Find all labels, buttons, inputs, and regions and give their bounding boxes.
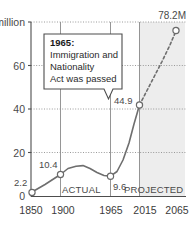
callout-line-1: Immigration and	[50, 49, 118, 60]
immigration-population-chart: 80 million 60 40 20 0 1850 1900 1965 201…	[0, 0, 191, 232]
data-point-2065	[173, 27, 179, 33]
data-point-1900	[57, 171, 63, 177]
callout-title: 1965:	[50, 37, 74, 48]
annotation-callout: 1965: Immigration and Nationality Act wa…	[44, 34, 122, 99]
callout-line-3: Act was passed	[50, 73, 117, 84]
data-point-2015	[136, 102, 142, 108]
x-tick-label-1965: 1965	[99, 204, 123, 216]
callout-line-2: Nationality	[50, 61, 95, 72]
y-tick-label-80: 80 million	[0, 16, 25, 28]
data-point-1965	[107, 173, 113, 179]
y-tick-label-20: 20	[13, 147, 25, 159]
region-label-projected: PROJECTED	[124, 184, 183, 195]
region-label-actual: ACTUAL	[62, 184, 101, 195]
x-tick-label-2015: 2015	[133, 204, 157, 216]
x-tick-label-1850: 1850	[19, 204, 43, 216]
x-tick-label-2065: 2065	[165, 204, 189, 216]
point-label-78-2m: 78.2M	[158, 10, 186, 21]
data-point-1850	[29, 189, 35, 195]
y-tick-label-40: 40	[13, 103, 25, 115]
chart-canvas: 80 million 60 40 20 0 1850 1900 1965 201…	[0, 0, 191, 232]
point-label-2-2: 2.2	[14, 177, 27, 188]
y-tick-label-60: 60	[13, 60, 25, 72]
point-label-10-4: 10.4	[39, 159, 58, 170]
y-tick-label-0: 0	[19, 190, 25, 202]
point-label-44-9: 44.9	[114, 95, 133, 106]
series-actual-line	[32, 105, 140, 192]
x-tick-label-1900: 1900	[51, 204, 75, 216]
